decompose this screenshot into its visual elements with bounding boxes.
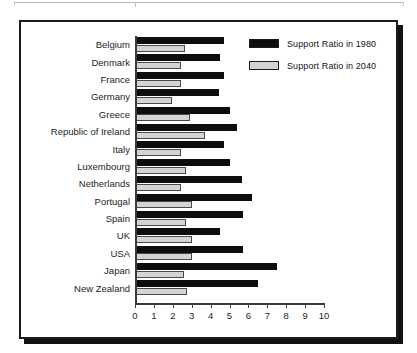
bar-1980 <box>135 72 224 79</box>
bar-2040 <box>135 288 187 295</box>
x-tick-label: 2 <box>170 310 175 321</box>
bar-row: Belgium <box>21 36 396 53</box>
bar-2040 <box>135 97 172 104</box>
bar-row: New Zealand <box>21 279 396 296</box>
bar-row: Germany <box>21 88 396 105</box>
bar-1980 <box>135 211 243 218</box>
bar-group <box>135 140 396 157</box>
bar-2040 <box>135 62 181 69</box>
bar-2040 <box>135 114 190 121</box>
bar-group <box>135 71 396 88</box>
category-label: Denmark <box>21 57 135 68</box>
x-tick <box>267 303 268 308</box>
x-tick <box>248 303 249 308</box>
category-label: France <box>21 74 135 85</box>
bar-row: France <box>21 71 396 88</box>
category-label: Japan <box>21 265 135 276</box>
bar-group <box>135 245 396 262</box>
bar-2040 <box>135 45 185 52</box>
x-tick <box>154 303 155 308</box>
category-label: Republic of Ireland <box>21 126 135 137</box>
category-label: Spain <box>21 213 135 224</box>
bar-2040 <box>135 236 192 243</box>
bar-row: Denmark <box>21 53 396 70</box>
bar-row: UK <box>21 227 396 244</box>
x-tick-label: 4 <box>208 310 213 321</box>
bar-group <box>135 193 396 210</box>
x-tick <box>173 303 174 308</box>
bar-1980 <box>135 37 224 44</box>
bar-1980 <box>135 159 230 166</box>
bar-group <box>135 53 396 70</box>
x-tick <box>324 303 325 308</box>
bar-group <box>135 36 396 53</box>
bar-1980 <box>135 141 224 148</box>
plot-area: Support Ratio in 1980 Support Ratio in 2… <box>21 22 396 337</box>
bar-row: USA <box>21 245 396 262</box>
bar-group <box>135 88 396 105</box>
bar-row: Japan <box>21 262 396 279</box>
x-tick <box>192 303 193 308</box>
bar-group <box>135 227 396 244</box>
category-label: USA <box>21 248 135 259</box>
x-tick <box>230 303 231 308</box>
bar-2040 <box>135 271 184 278</box>
x-tick-label: 9 <box>302 310 307 321</box>
bar-row: Luxembourg <box>21 158 396 175</box>
x-tick-label: 5 <box>227 310 232 321</box>
bar-row: Spain <box>21 210 396 227</box>
x-tick-label: 0 <box>132 310 137 321</box>
bar-2040 <box>135 80 181 87</box>
bar-1980 <box>135 54 220 61</box>
bar-1980 <box>135 107 230 114</box>
chart-frame: Support Ratio in 1980 Support Ratio in 2… <box>19 20 398 339</box>
x-tick-label: 7 <box>265 310 270 321</box>
bar-1980 <box>135 124 237 131</box>
bar-2040 <box>135 253 192 260</box>
x-tick-label: 3 <box>189 310 194 321</box>
bar-2040 <box>135 132 205 139</box>
x-tick <box>286 303 287 308</box>
bar-row: Republic of Ireland <box>21 123 396 140</box>
bar-group <box>135 210 396 227</box>
bar-group <box>135 158 396 175</box>
x-tick-label: 10 <box>319 310 330 321</box>
category-label: Greece <box>21 109 135 120</box>
bar-row: Netherlands <box>21 175 396 192</box>
x-tick <box>135 303 136 308</box>
bar-group <box>135 175 396 192</box>
bar-1980 <box>135 194 252 201</box>
bar-2040 <box>135 149 181 156</box>
bar-group <box>135 262 396 279</box>
bar-group <box>135 279 396 296</box>
x-tick-label: 6 <box>246 310 251 321</box>
category-label: New Zealand <box>21 283 135 294</box>
bar-1980 <box>135 263 277 270</box>
y-axis-line <box>135 36 137 304</box>
x-tick-label: 1 <box>151 310 156 321</box>
scan-artifact-top-rule <box>14 2 404 6</box>
category-label: Luxembourg <box>21 161 135 172</box>
category-label: Portugal <box>21 196 135 207</box>
bar-row: Greece <box>21 106 396 123</box>
category-label: Italy <box>21 144 135 155</box>
category-label: UK <box>21 230 135 241</box>
category-label: Netherlands <box>21 178 135 189</box>
category-label: Germany <box>21 91 135 102</box>
bar-1980 <box>135 228 220 235</box>
bar-1980 <box>135 89 219 96</box>
x-tick <box>305 303 306 308</box>
bar-row: Italy <box>21 140 396 157</box>
bar-2040 <box>135 219 186 226</box>
bar-1980 <box>135 176 242 183</box>
bar-2040 <box>135 201 192 208</box>
x-tick-label: 8 <box>284 310 289 321</box>
bar-group <box>135 123 396 140</box>
category-label: Belgium <box>21 39 135 50</box>
bar-1980 <box>135 246 243 253</box>
bar-1980 <box>135 280 258 287</box>
bar-2040 <box>135 184 181 191</box>
bar-2040 <box>135 167 186 174</box>
bar-row: Portugal <box>21 193 396 210</box>
bar-group <box>135 106 396 123</box>
